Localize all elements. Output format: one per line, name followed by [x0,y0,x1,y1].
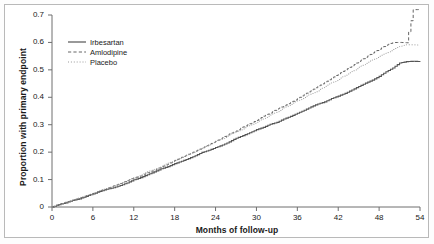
x-tick-label: 54 [407,213,433,222]
y-tick-label: 0.5 [18,65,44,74]
y-tick-label: 0.2 [18,147,44,156]
x-tick-label: 48 [366,213,392,222]
x-axis-title: Months of follow-up [52,225,422,235]
legend-label-placebo: Placebo [90,58,117,67]
y-tick-label: 0 [18,202,44,211]
y-tick-label: 0.1 [18,175,44,184]
legend-label-amlodipine: Amlodipine [90,48,127,57]
x-tick-label: 6 [80,213,106,222]
legend-label-irbesartan: Irbesartan [90,38,124,47]
series-line-irbesartan [52,61,420,207]
x-tick-label: 30 [243,213,269,222]
series-line-placebo [52,45,420,207]
x-axis-ticks [52,207,420,211]
x-tick-label: 36 [284,213,310,222]
figure: Proportion with primary endpoint Months … [0,0,434,244]
y-tick-label: 0.3 [18,120,44,129]
y-tick-label: 0.4 [18,92,44,101]
y-tick-label: 0.6 [18,37,44,46]
legend-sample-lines [68,42,86,62]
x-tick-label: 0 [39,213,65,222]
x-tick-label: 24 [203,213,229,222]
x-tick-label: 18 [162,213,188,222]
y-axis-ticks [48,15,52,207]
x-tick-label: 12 [121,213,147,222]
x-tick-label: 42 [325,213,351,222]
chart-canvas [0,0,434,244]
y-tick-label: 0.7 [18,10,44,19]
